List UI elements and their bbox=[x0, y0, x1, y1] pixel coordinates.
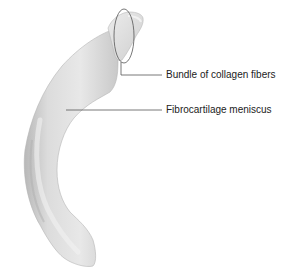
label-bundle-of-collagen-fibers: Bundle of collagen fibers bbox=[166, 69, 276, 81]
label-fibrocartilage-meniscus: Fibrocartilage meniscus bbox=[166, 104, 272, 116]
fibrocartilage-meniscus-shape bbox=[24, 30, 118, 267]
leader-line-collagen bbox=[121, 62, 162, 75]
meniscus-illustration bbox=[0, 0, 294, 280]
